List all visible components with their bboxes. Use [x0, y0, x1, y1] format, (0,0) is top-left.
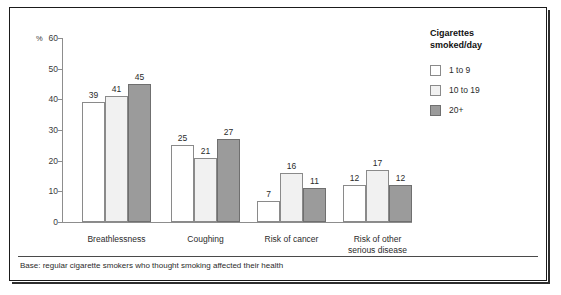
bar-value-label: 17: [373, 158, 382, 168]
bar: [366, 170, 389, 222]
legend-entry: 20+: [430, 100, 540, 120]
plot-area: [62, 38, 410, 222]
y-axis-tick-label: 30: [0, 125, 58, 135]
bar: [128, 84, 151, 222]
bar: [105, 96, 128, 222]
bar: [82, 102, 105, 222]
bar-value-label: 45: [135, 72, 144, 82]
category-label: Breathlessness: [87, 234, 145, 245]
bar-value-label: 11: [310, 176, 319, 186]
legend-title: Cigarettes smoked/day: [430, 28, 540, 51]
bar-value-label: 25: [178, 133, 187, 143]
chart-figure: 0102030405060 % 39257124121161745271112 …: [0, 0, 561, 295]
bar-value-label: 16: [287, 161, 296, 171]
bar: [303, 188, 326, 222]
bar: [389, 185, 412, 222]
y-axis-tick-label: 60: [0, 33, 58, 43]
category-label: Coughing: [187, 234, 223, 245]
bar-value-label: 7: [266, 189, 271, 199]
frame-shadow-right: [548, 10, 550, 284]
legend-entry: 1 to 9: [430, 60, 540, 80]
legend-swatch-icon: [430, 85, 441, 96]
x-axis-line: [62, 222, 412, 223]
legend-entries: 1 to 910 to 1920+: [430, 60, 540, 120]
y-axis-tick-label: 0: [0, 217, 58, 227]
bar: [217, 139, 240, 222]
bar-value-label: 12: [396, 173, 405, 183]
frame-shadow-bottom: [12, 282, 550, 284]
chart-legend: Cigarettes smoked/day 1 to 910 to 1920+: [430, 28, 540, 120]
bar: [343, 185, 366, 222]
bar-value-label: 12: [350, 173, 359, 183]
legend-swatch-icon: [430, 105, 441, 116]
legend-label: 10 to 19: [449, 85, 480, 95]
y-axis-tick-label: 50: [0, 64, 58, 74]
category-label: Risk of cancer: [265, 234, 319, 245]
y-axis-tick-label: 10: [0, 186, 58, 196]
bar-value-label: 39: [89, 90, 98, 100]
chart-footnote: Base: regular cigarette smokers who thou…: [20, 261, 283, 270]
y-axis-unit-label: %: [36, 34, 43, 43]
bar-value-label: 27: [224, 127, 233, 137]
legend-swatch-icon: [430, 65, 441, 76]
y-axis-tick-label: 20: [0, 156, 58, 166]
legend-entry: 10 to 19: [430, 80, 540, 100]
bar: [257, 201, 280, 222]
y-axis-tick-label: 40: [0, 94, 58, 104]
bar-value-label: 21: [201, 146, 210, 156]
bar: [280, 173, 303, 222]
category-label: Risk of otherserious disease: [348, 234, 407, 255]
bar: [194, 158, 217, 222]
legend-label: 1 to 9: [449, 65, 470, 75]
legend-label: 20+: [449, 105, 463, 115]
bar: [171, 145, 194, 222]
footnote-divider: [18, 256, 538, 257]
bar-value-label: 41: [112, 84, 121, 94]
y-axis-tick-mark: [58, 222, 62, 223]
